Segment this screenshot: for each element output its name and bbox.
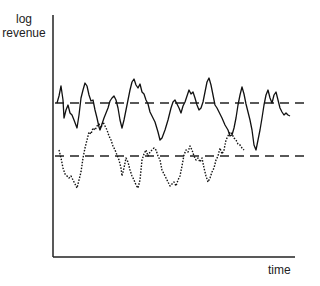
data-series [57,78,290,188]
dotted-series-line [59,122,244,188]
solid-series-line [57,78,290,150]
chart-plot [0,0,320,286]
